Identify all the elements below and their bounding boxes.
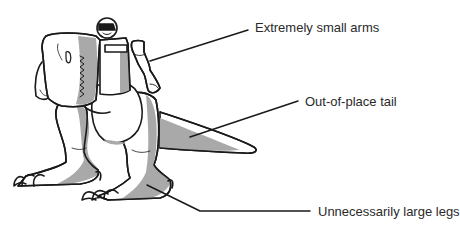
tail (160, 112, 256, 153)
leader-line-legs (147, 185, 310, 211)
callout-label-legs: Unnecessarily large legs (318, 205, 460, 219)
small-arm (131, 41, 160, 93)
leader-line-tail (190, 101, 298, 137)
dino-head-torso (35, 33, 100, 107)
leader-line-arms (150, 30, 248, 61)
callout-label-tail: Out-of-place tail (305, 95, 397, 109)
left-leg (14, 100, 110, 186)
robot-head (97, 18, 117, 38)
callout-label-arms: Extremely small arms (255, 21, 379, 35)
robot-torso (100, 38, 130, 95)
